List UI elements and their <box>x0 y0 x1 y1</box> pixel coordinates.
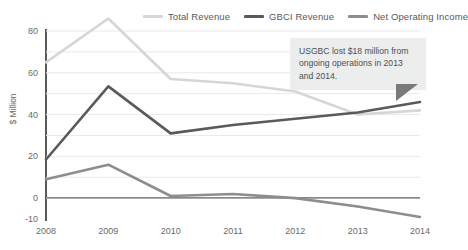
legend-label-total-revenue: Total Revenue <box>168 11 230 22</box>
legend-item-total-revenue: Total Revenue <box>143 11 230 22</box>
legend-label-gbci-revenue: GBCI Revenue <box>269 11 334 22</box>
x-axis-tick-label: 2011 <box>223 226 242 236</box>
y-axis-tick-label: 20 <box>28 151 38 161</box>
x-axis-tick-label: 2009 <box>98 226 118 236</box>
y-axis-tick-label: 0 <box>33 193 38 203</box>
legend-swatch-total-revenue <box>143 15 163 18</box>
x-axis-tick-label: 2008 <box>36 226 56 236</box>
legend-item-gbci-revenue: GBCI Revenue <box>244 11 334 22</box>
series-line-net-operating-income <box>46 165 420 217</box>
legend-swatch-gbci-revenue <box>244 15 264 18</box>
y-axis-tick-label: -10 <box>25 214 38 224</box>
legend-swatch-net-operating-income <box>348 15 368 18</box>
annotation-pointer-icon <box>396 84 418 101</box>
chart-legend: Total Revenue GBCI Revenue Net Operating… <box>143 9 433 23</box>
x-axis-tick-label: 2013 <box>348 226 368 236</box>
legend-label-net-operating-income: Net Operating Income <box>373 11 468 22</box>
y-axis-tick-label: 40 <box>28 110 38 120</box>
x-axis-tick-labels: 2008200920102011201220132014 <box>46 226 420 240</box>
annotation-callout: USGBC lost $18 million from ongoing oper… <box>290 38 426 90</box>
x-axis-tick-label: 2012 <box>285 226 305 236</box>
series-line-gbci-revenue <box>46 86 420 159</box>
x-axis-tick-label: 2010 <box>161 226 181 236</box>
legend-item-net-operating-income: Net Operating Income <box>348 11 468 22</box>
y-axis-tick-labels: 806040200-10 <box>0 0 44 250</box>
x-axis-tick-label: 2014 <box>410 226 430 236</box>
y-axis-tick-label: 80 <box>28 26 38 36</box>
y-axis-tick-label: 60 <box>28 68 38 78</box>
